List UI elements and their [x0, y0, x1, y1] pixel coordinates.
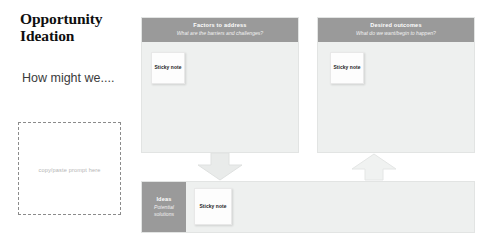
panel-ideas-title: Ideas [156, 196, 171, 203]
arrow-up-icon [348, 153, 400, 181]
panel-outcomes-title: Desired outcomes [324, 22, 468, 29]
sticky-note[interactable]: Sticky note [151, 52, 185, 84]
panel-factors-title: Factors to address [148, 22, 292, 29]
panel-ideas[interactable]: Ideas Potential solutions Sticky note [141, 181, 475, 233]
prompt-dropzone[interactable]: copy/paste prompt here [18, 122, 121, 215]
panel-desired-outcomes[interactable]: Desired outcomes What do we want/begin t… [317, 17, 475, 153]
panel-factors-body[interactable]: Sticky note [142, 42, 298, 148]
panel-outcomes-header: Desired outcomes What do we want/begin t… [318, 18, 474, 42]
sticky-note[interactable]: Sticky note [194, 188, 232, 225]
prompt-dropzone-label: copy/paste prompt here [19, 167, 120, 173]
panel-factors-to-address[interactable]: Factors to address What are the barriers… [141, 17, 299, 153]
panel-ideas-subtitle: Potential solutions [145, 204, 183, 217]
panel-factors-subtitle: What are the barriers and challenges? [148, 30, 292, 37]
sticky-note-label: Sticky note [199, 204, 226, 209]
sticky-note-label: Sticky note [154, 65, 181, 70]
panel-outcomes-subtitle: What do we want/begin to happen? [324, 30, 468, 37]
panel-outcomes-body[interactable]: Sticky note [318, 42, 474, 148]
panel-ideas-body[interactable]: Sticky note [186, 182, 474, 232]
sticky-note[interactable]: Sticky note [330, 52, 364, 84]
panel-factors-header: Factors to address What are the barriers… [142, 18, 298, 42]
left-intro-column: Opportunity Ideation How might we.... co… [0, 0, 132, 246]
sticky-note-label: Sticky note [333, 65, 360, 70]
page-title: Opportunity Ideation [20, 10, 130, 45]
arrow-down-icon [194, 153, 246, 181]
panel-ideas-header: Ideas Potential solutions [142, 182, 186, 232]
ideation-board: Factors to address What are the barriers… [132, 0, 478, 246]
how-might-we-text: How might we.... [22, 70, 132, 87]
